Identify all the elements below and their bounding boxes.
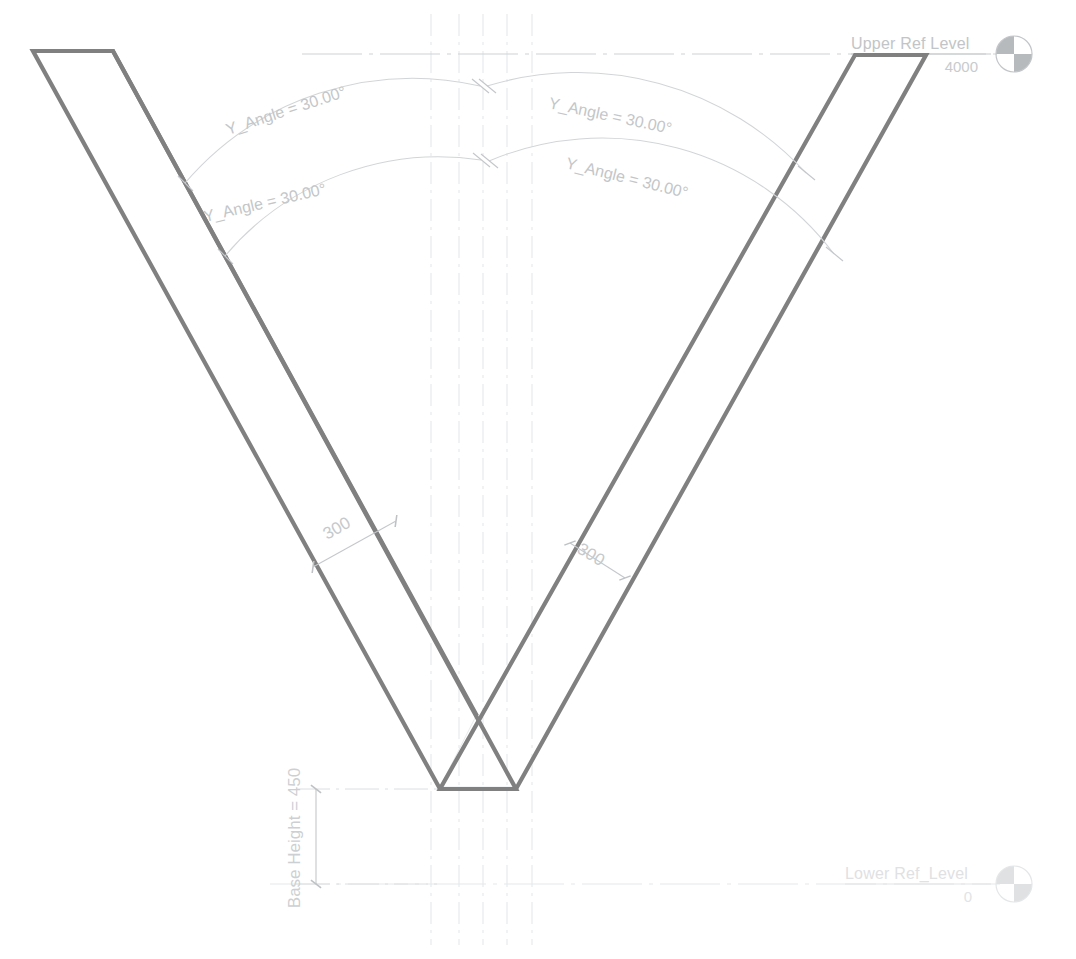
lower-ref-level-label: Lower Ref_Level [845, 865, 968, 883]
upper-ref-level-label: Upper Ref Level [851, 35, 970, 52]
technical-drawing-sheet: Upper Ref Level 4000 Lower Ref_Level 0 [0, 0, 1076, 959]
drawing-canvas: Upper Ref Level 4000 Lower Ref_Level 0 [0, 0, 1076, 959]
angle-label-right-inner: Y_Angle = 30.00° [564, 154, 690, 202]
v-profile-closed-path[interactable] [33, 51, 516, 789]
thickness-dimension-left[interactable]: 300 [313, 513, 396, 567]
angle-tick-left-outer-start [178, 176, 193, 191]
angle-arc-right-inner[interactable] [489, 138, 834, 254]
angle-tick-right-inner-end [826, 247, 843, 261]
angle-arc-left-ticks [178, 79, 490, 264]
angle-tick-left-outer-end [472, 79, 489, 93]
half-filled-circle-icon[interactable] [996, 36, 1032, 72]
v-profile-outline[interactable] [33, 51, 926, 789]
base-height-label: Base Height = 450 [285, 768, 304, 908]
thickness-label-left: 300 [320, 513, 354, 543]
base-height-dimension[interactable]: Base Height = 450 [285, 768, 442, 908]
v-profile-right-closed-path[interactable] [440, 55, 926, 789]
lower-ref-level-group[interactable]: Lower Ref_Level 0 [270, 865, 1032, 905]
angle-dimension-arcs-left[interactable] [185, 78, 481, 256]
reference-plane-lines [431, 14, 532, 945]
angle-label-right-outer: Y_Angle = 30.00° [547, 94, 673, 138]
angle-tick-right-outer-start [479, 79, 496, 93]
half-filled-circle-icon[interactable] [996, 866, 1032, 902]
angle-tick-left-inner-start [218, 249, 233, 264]
v-profile-left-arm[interactable] [33, 51, 477, 716]
lower-ref-level-elevation: 0 [964, 888, 972, 905]
upper-ref-level-elevation: 4000 [945, 58, 978, 75]
angle-label-left-outer: Y_Angle = 30.00° [224, 83, 349, 139]
angle-dimension-arcs-right[interactable] [487, 72, 834, 254]
angle-tick-right-outer-end [798, 166, 815, 180]
angle-label-left-inner: Y_Angle = 30.00° [202, 180, 328, 226]
